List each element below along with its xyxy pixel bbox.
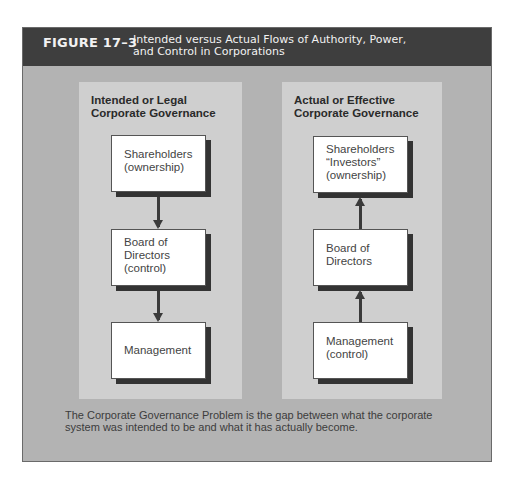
management-box: Management bbox=[111, 322, 206, 379]
shareholders-box: Shareholders (ownership) bbox=[111, 135, 206, 192]
arrow-down-icon bbox=[157, 291, 160, 320]
board-of-directors-box: Board of Directors bbox=[313, 229, 408, 286]
figure-label: FIGURE 17–3 bbox=[43, 35, 137, 50]
figure-title: Intended versus Actual Flows of Authorit… bbox=[133, 34, 433, 58]
management-control-box: Management (control) bbox=[313, 322, 408, 379]
shareholders-investors-box: Shareholders “Investors” (ownership) bbox=[313, 136, 408, 193]
figure-caption: The Corporate Governance Problem is the … bbox=[65, 409, 465, 433]
arrow-up-icon bbox=[359, 292, 362, 322]
board-of-directors-box: Board of Directors (control) bbox=[111, 229, 206, 286]
arrow-up-icon bbox=[359, 199, 362, 229]
figure-header: FIGURE 17–3 Intended versus Actual Flows… bbox=[23, 28, 491, 66]
panel-title: Actual or Effective Corporate Governance bbox=[294, 94, 419, 120]
arrow-down-icon bbox=[157, 197, 160, 227]
figure: FIGURE 17–3 Intended versus Actual Flows… bbox=[22, 27, 492, 462]
panel-title: Intended or Legal Corporate Governance bbox=[91, 94, 216, 120]
